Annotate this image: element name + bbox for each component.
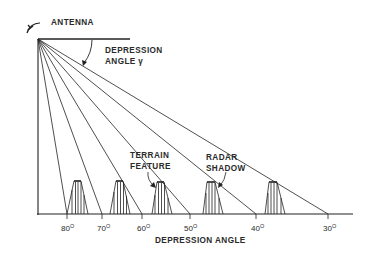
depression-angle-label-line2: ANGLE γ [105,57,143,66]
radar-shadow-pointer [218,172,226,188]
tick-label-70: 70O [97,223,111,233]
tick-marks [67,214,328,219]
terrain-feature-label-line1: TERRAIN [130,151,169,160]
arrow-head-icon [82,60,87,66]
ray-30 [38,39,328,214]
depression-angle-label-line1: DEPRESSION [105,46,163,55]
terrain-feature-label-line2: FEATURE [130,162,171,171]
radar-rays [38,39,328,214]
tick-label-80: 80O [61,223,75,233]
ray-70 [38,39,102,214]
tick-label-30: 30O [323,223,337,233]
ray-80 [38,39,67,214]
radar-depression-angle-diagram: ANTENNA DEPRESSION ANGLE γ TERRAIN FEATU… [0,0,374,261]
tick-label-40: 40O [251,223,265,233]
axis-title: DEPRESSION ANGLE [155,236,246,245]
tick-labels: 80O 70O 60O 50O 40O 30O [61,223,337,233]
antenna-label: ANTENNA [51,18,94,27]
terrain-feature-4 [203,182,223,214]
terrain-feature-1 [67,181,88,214]
terrain-feature-pointer [148,172,156,188]
radar-shadow-label-line2: SHADOW [206,164,246,173]
terrain-feature-2 [110,181,130,214]
depression-angle-arc [82,40,92,66]
antenna-icon [27,23,40,33]
tick-label-60: 60O [137,223,151,233]
terrain-feature-5 [265,182,285,214]
tick-label-50: 50O [184,223,198,233]
radar-shadow-label-line1: RADAR [206,153,238,162]
ray-40 [38,39,256,214]
